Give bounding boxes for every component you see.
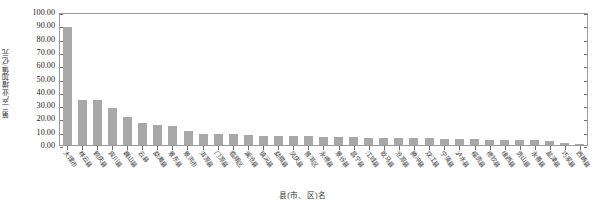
bar-cell — [406, 14, 421, 145]
x-axis-label: 宾川县 — [104, 150, 119, 190]
y-axis-tick-mark — [584, 81, 587, 82]
x-axis-label: 巧家县 — [558, 150, 573, 190]
x-axis-label: 耿马县 — [376, 150, 391, 190]
bar-cell — [150, 14, 165, 145]
x-axis-label: 宁蒗县 — [437, 150, 452, 190]
x-axis-label: 洱源县 — [195, 150, 210, 190]
bar — [515, 140, 524, 145]
bar-cell — [90, 14, 105, 145]
bar — [500, 140, 509, 145]
x-axis-label: 门源县 — [210, 150, 225, 190]
bar-cell — [376, 14, 391, 145]
y-axis-tick-label: 80.00 — [37, 35, 55, 43]
bar — [214, 134, 223, 145]
bar-cell — [512, 14, 527, 145]
bar-cell — [467, 14, 482, 145]
bar — [304, 136, 313, 145]
x-axis-label: 澜沧县 — [240, 150, 255, 190]
x-axis-label: 普洱区 — [301, 150, 316, 190]
y-axis-tick-mark — [60, 54, 63, 55]
bar-cell — [211, 14, 226, 145]
bar — [108, 108, 117, 145]
x-axis-label: 云县 — [135, 150, 150, 190]
bar-cell — [527, 14, 542, 145]
bar-cell — [135, 14, 150, 145]
y-axis-tick-mark — [584, 134, 587, 135]
bar — [319, 137, 328, 145]
x-axis-label: 鹤庆县 — [89, 150, 104, 190]
x-axis-label: 巍山县 — [119, 150, 134, 190]
y-axis-tick-label: 30.00 — [37, 102, 55, 110]
y-axis-tick-mark — [60, 27, 63, 28]
x-axis-label-text: 西畴县 — [575, 150, 591, 168]
bar-cell — [542, 14, 557, 145]
bar-cell — [557, 14, 572, 145]
bar — [244, 135, 253, 145]
bar — [409, 138, 418, 145]
x-axis-label-text: 云县 — [137, 150, 149, 163]
x-axis-title: 县(市、区)名 — [0, 189, 605, 200]
y-axis-tick-mark — [60, 134, 63, 135]
x-axis-label: 景东县 — [165, 150, 180, 190]
x-axis-label: 勐海县 — [150, 150, 165, 190]
x-axis-label: 临翔区 — [225, 150, 240, 190]
y-axis-tick-mark — [60, 94, 63, 95]
bar — [455, 139, 464, 145]
y-axis-tick-mark — [60, 107, 63, 108]
y-axis-tick-mark — [584, 120, 587, 121]
bar — [545, 141, 554, 145]
bar-cell — [286, 14, 301, 145]
bar — [440, 139, 449, 145]
bar-cell — [572, 14, 587, 145]
bar-cell — [241, 14, 256, 145]
y-axis-tick-labels: 100.0090.0080.0070.0060.0050.0040.0030.0… — [14, 8, 58, 148]
bar-cell — [331, 14, 346, 145]
x-axis-label: 沧源县 — [391, 150, 406, 190]
plot-area — [59, 13, 588, 146]
x-axis-label: 景谷县 — [331, 150, 346, 190]
x-axis-label: 腾冲县 — [407, 150, 422, 190]
bar — [530, 140, 539, 145]
x-axis-label: 镇沅县 — [255, 150, 270, 190]
x-axis-label: 贡山县 — [512, 150, 527, 190]
x-axis-label: 江城县 — [361, 150, 376, 190]
bar-cell — [75, 14, 90, 145]
bar — [78, 100, 87, 145]
bar-cell — [452, 14, 467, 145]
y-axis-tick-label: 50.00 — [37, 75, 55, 83]
bar-cell — [165, 14, 180, 145]
bar — [229, 134, 238, 145]
y-axis-tick-label: 70.00 — [37, 49, 55, 57]
bar — [334, 137, 343, 145]
x-axis-label: 景洪市 — [180, 150, 195, 190]
y-axis-tick-mark — [584, 67, 587, 68]
bar-cell — [437, 14, 452, 145]
bar-cell — [271, 14, 286, 145]
y-axis-tick-mark — [584, 54, 587, 55]
y-axis-tick-label: 100.00 — [32, 9, 55, 17]
x-axis-label: 泸水县 — [452, 150, 467, 190]
bar-cell — [301, 14, 316, 145]
bar — [485, 140, 494, 145]
x-axis-label: 永德县 — [316, 150, 331, 190]
y-axis-tick-label: 40.00 — [37, 89, 55, 97]
bar-cell — [256, 14, 271, 145]
bar — [63, 27, 72, 145]
bar — [289, 136, 298, 145]
bar — [364, 138, 373, 145]
y-axis-tick-label: 90.00 — [37, 22, 55, 30]
y-axis-tick-mark — [584, 94, 587, 95]
y-axis-tick-label: 60.00 — [37, 62, 55, 70]
bar-cell — [181, 14, 196, 145]
bar — [425, 138, 434, 145]
bar — [123, 117, 132, 145]
bar — [575, 144, 584, 145]
bar-cell — [346, 14, 361, 145]
y-axis-tick-mark — [60, 81, 63, 82]
y-axis-tick-label: 0.00 — [41, 142, 55, 150]
bar — [349, 137, 358, 145]
x-axis-label: 永善县 — [527, 150, 542, 190]
y-axis-tick-mark — [60, 120, 63, 121]
y-axis-title-text: 第二产业增加值/亿元 — [1, 49, 11, 118]
y-axis-tick-label: 10.00 — [37, 129, 55, 137]
